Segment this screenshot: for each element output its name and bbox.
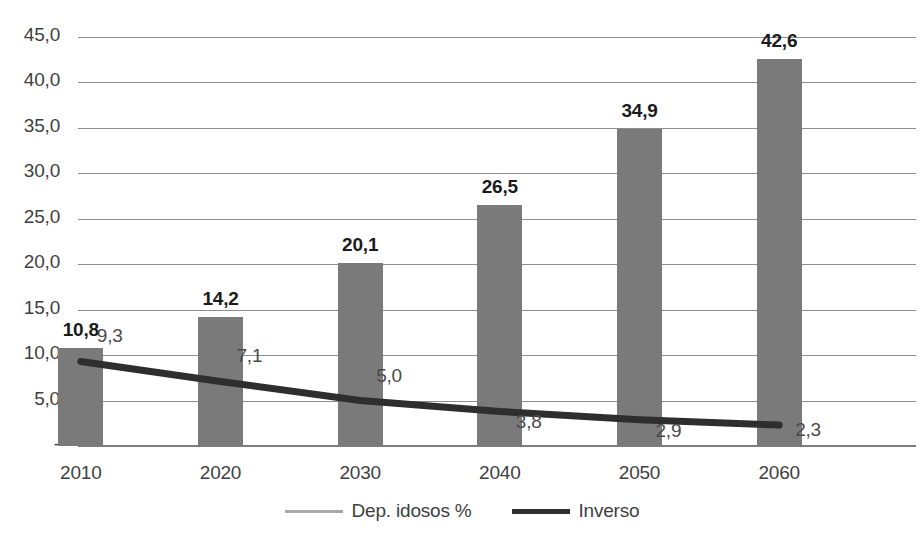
bar-value-label: 34,9 — [595, 100, 685, 122]
bar-value-label: 26,5 — [455, 176, 545, 198]
line-series-inverso — [78, 30, 916, 454]
y-tick-label: 40,0 — [0, 69, 60, 91]
chart-container: 45,040,035,030,025,020,015,010,05,0- 10,… — [0, 0, 924, 557]
bar-value-label: 14,2 — [176, 288, 266, 310]
bar-value-label: 20,1 — [315, 234, 405, 256]
legend-marker-icon-dep-idosos — [285, 510, 343, 513]
bar-value-label: 42,6 — [734, 30, 824, 52]
legend-marker-icon-inverso — [512, 509, 570, 514]
y-tick-label: 20,0 — [0, 251, 60, 273]
x-tick-label: 2060 — [719, 462, 839, 484]
x-tick-label: 2050 — [580, 462, 700, 484]
y-tick-label: 35,0 — [0, 115, 60, 137]
line-value-label: 9,3 — [97, 325, 167, 347]
y-tick-label: 5,0 — [0, 388, 60, 410]
y-tick-label: 10,0 — [0, 342, 60, 364]
legend-item-dep-idosos[interactable]: Dep. idosos % — [285, 500, 472, 522]
x-tick-label: 2040 — [440, 462, 560, 484]
y-tick-label: - — [0, 433, 60, 455]
plot-area — [78, 30, 916, 454]
legend-item-inverso[interactable]: Inverso — [512, 500, 640, 522]
y-tick-label: 30,0 — [0, 160, 60, 182]
line-value-label: 3,8 — [516, 411, 586, 433]
line-value-label: 5,0 — [376, 365, 446, 387]
x-tick-label: 2020 — [161, 462, 281, 484]
legend: Dep. idosos % Inverso — [0, 500, 924, 522]
y-tick-label: 45,0 — [0, 24, 60, 46]
line-value-label: 2,3 — [795, 419, 865, 441]
x-tick-label: 2030 — [300, 462, 420, 484]
y-tick-label: 25,0 — [0, 206, 60, 228]
line-value-label: 2,9 — [656, 420, 726, 442]
legend-label-dep-idosos: Dep. idosos % — [352, 500, 472, 522]
legend-label-inverso: Inverso — [579, 500, 640, 522]
line-value-label: 7,1 — [237, 345, 307, 367]
y-tick-label: 15,0 — [0, 297, 60, 319]
x-tick-label: 2010 — [21, 462, 141, 484]
